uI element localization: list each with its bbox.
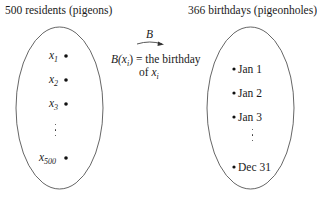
pigeon-label: x500 bbox=[39, 151, 56, 163]
mapping-definition-line1: B(xi) = the birthday bbox=[111, 53, 201, 65]
pigeonhole-label: Dec 31 bbox=[238, 161, 271, 173]
pigeons-ellipse bbox=[16, 27, 103, 189]
pigeon-label: x3 bbox=[49, 97, 58, 109]
pigeonhole-dot bbox=[232, 67, 235, 70]
pigeonholes-ellipsis bbox=[252, 129, 254, 145]
mapping-definition-line2: of xi bbox=[139, 66, 159, 78]
pigeonhole-dot bbox=[232, 91, 235, 94]
pigeon-label: x1 bbox=[49, 49, 58, 61]
pigeonhole-label: Jan 2 bbox=[238, 87, 262, 99]
pigeon-dot bbox=[64, 102, 68, 106]
pigeon-dot bbox=[64, 156, 68, 160]
pigeon-label: x2 bbox=[49, 73, 58, 85]
mapping-label: B bbox=[146, 28, 153, 40]
pigeons-ellipsis bbox=[55, 124, 57, 140]
pigeonhole-dot bbox=[232, 165, 235, 168]
pigeon-dot bbox=[64, 54, 68, 58]
pigeonhole-label: Jan 3 bbox=[238, 111, 262, 123]
pigeonhole-label: Jan 1 bbox=[238, 63, 262, 75]
pigeonhole-dot bbox=[232, 115, 235, 118]
pigeon-dot bbox=[64, 78, 68, 82]
